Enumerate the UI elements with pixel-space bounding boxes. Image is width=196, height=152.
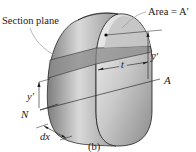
section-plane-leader bbox=[30, 28, 56, 56]
dx-arrow-left-icon bbox=[44, 126, 49, 129]
t-label: t bbox=[121, 59, 124, 70]
section-slice-diagram: Section plane Area = A′ y̅′ t A y′ N dx … bbox=[0, 0, 196, 152]
y-bar-prime-label: y̅′ bbox=[150, 51, 159, 62]
dx-label: dx bbox=[40, 131, 50, 142]
area-label: Area = A′ bbox=[148, 6, 189, 17]
y-prime-label: y′ bbox=[26, 91, 35, 102]
section-plane-label: Section plane bbox=[2, 15, 59, 26]
y-prime-arrow-up-icon bbox=[37, 82, 40, 87]
figure-caption: (b) bbox=[88, 141, 101, 152]
N-label: N bbox=[20, 108, 29, 120]
A-label: A bbox=[163, 74, 171, 86]
